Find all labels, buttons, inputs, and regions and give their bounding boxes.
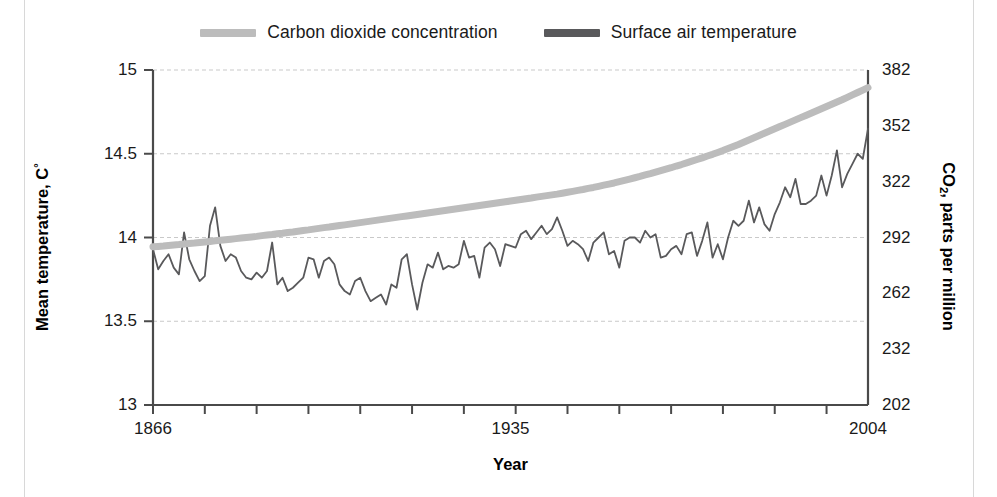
y-axis-left-tick-label: 14.5 (91, 144, 137, 164)
x-axis-tick-label: 2004 (828, 419, 908, 439)
y-axis-right-tick-label: 202 (882, 395, 928, 415)
figure-page: Carbon dioxide concentration Surface air… (0, 0, 997, 497)
y-axis-left-title: Mean temperature, C° (32, 127, 53, 367)
y-axis-right-tick-label: 292 (882, 228, 928, 248)
series-line-temperature (153, 129, 868, 310)
y-axis-right-tick-label: 352 (882, 116, 928, 136)
y-axis-right-tick-label: 262 (882, 283, 928, 303)
y-axis-left-tick-label: 13 (91, 395, 137, 415)
y-axis-right-tick-label: 382 (882, 60, 928, 80)
line-chart: Mean temperature, C° CO2, parts per mill… (0, 0, 997, 497)
y-axis-left-tick-label: 14 (91, 228, 137, 248)
x-axis-tick-label: 1935 (471, 419, 551, 439)
x-axis-title: Year (153, 455, 868, 474)
y-axis-right-title: CO2, parts per million (939, 127, 958, 367)
y-axis-right-tick-label: 322 (882, 172, 928, 192)
y-axis-left-tick-label: 13.5 (91, 311, 137, 331)
x-axis-tick-label: 1866 (113, 419, 193, 439)
series-line-co2 (153, 88, 868, 247)
y-axis-left-tick-label: 15 (91, 60, 137, 80)
y-axis-right-tick-label: 232 (882, 339, 928, 359)
